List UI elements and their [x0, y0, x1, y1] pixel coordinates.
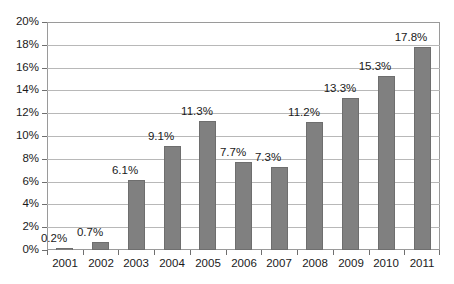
y-axis-tick-mark: [42, 182, 47, 183]
y-axis-tick-mark: [42, 113, 47, 114]
x-axis-tick-mark: [404, 250, 405, 255]
x-axis-ticks: [47, 250, 440, 256]
bar: [378, 76, 395, 250]
bar: [306, 122, 323, 250]
y-axis-tick-mark: [42, 227, 47, 228]
y-axis-tick-mark: [42, 204, 47, 205]
y-axis-tick-label: 8%: [2, 153, 39, 165]
bar: [271, 167, 288, 250]
y-axis-tick-label: 18%: [2, 39, 39, 51]
y-axis-tick-mark: [42, 45, 47, 46]
x-axis-tick-mark: [118, 250, 119, 255]
y-axis-tick-label: 12%: [2, 107, 39, 119]
bar: [164, 146, 181, 250]
bar: [92, 242, 109, 250]
y-axis-tick-mark: [42, 68, 47, 69]
y-axis-tick-label: 20%: [2, 16, 39, 28]
bar-value-label: 15.3%: [352, 61, 398, 73]
y-axis-tick-label: 10%: [2, 130, 39, 142]
y-axis-tick-label: 14%: [2, 84, 39, 96]
bar: [342, 98, 359, 250]
bar-chart: 0%2%4%6%8%10%12%14%16%18%20% 0.2%0.7%6.1…: [0, 0, 454, 284]
y-axis-tick-mark: [42, 22, 47, 23]
x-axis-tick-mark: [83, 250, 84, 255]
x-axis-tick-mark: [439, 250, 440, 255]
y-axis-tick-label: 0%: [2, 244, 39, 256]
bar-value-label: 11.2%: [281, 107, 327, 119]
x-axis-tick-mark: [47, 250, 48, 255]
y-axis-tick-mark: [42, 136, 47, 137]
y-axis-tick-label: 16%: [2, 62, 39, 74]
bar-value-label: 7.3%: [245, 152, 291, 164]
x-axis-tick-label: 2011: [399, 258, 445, 270]
x-axis-labels: 2001200220032004200520062007200820092010…: [47, 258, 440, 278]
bar-value-label: 6.1%: [102, 165, 148, 177]
x-axis-tick-mark: [261, 250, 262, 255]
bar: [414, 47, 431, 250]
bar-value-label: 13.3%: [317, 83, 363, 95]
x-axis-tick-mark: [333, 250, 334, 255]
y-axis-tick-label: 6%: [2, 176, 39, 188]
bar: [235, 162, 252, 250]
bar-value-label: 9.1%: [138, 131, 184, 143]
y-axis-tick-mark: [42, 159, 47, 160]
bar-value-label: 11.3%: [174, 106, 220, 118]
gridline: [47, 45, 440, 46]
y-axis-tick-mark: [42, 90, 47, 91]
x-axis-tick-mark: [190, 250, 191, 255]
x-axis-tick-mark: [154, 250, 155, 255]
bar-value-label: 0.7%: [67, 227, 113, 239]
y-axis-tick-label: 4%: [2, 198, 39, 210]
x-axis-tick-mark: [369, 250, 370, 255]
x-axis-tick-mark: [297, 250, 298, 255]
bar: [128, 180, 145, 250]
y-axis-tick-label: 2%: [2, 221, 39, 233]
x-axis-tick-mark: [226, 250, 227, 255]
bar: [199, 121, 216, 250]
bar-value-label: 17.8%: [388, 32, 434, 44]
